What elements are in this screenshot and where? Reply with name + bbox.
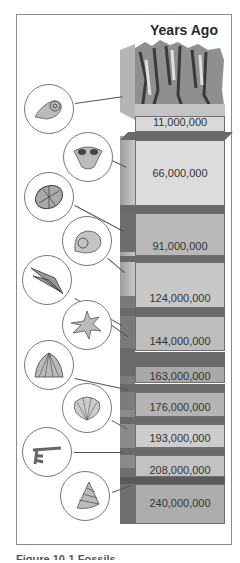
ammonite-icon	[33, 95, 65, 123]
belemnite-icon	[31, 266, 63, 294]
spiral-gastropod-icon	[69, 482, 101, 510]
fossil-circle-fan-shell	[24, 340, 74, 390]
fossil-circle-sea-urchin	[24, 172, 74, 222]
fossil-circle-belemnite	[22, 255, 72, 305]
layer-144000000: 144,000,000	[135, 316, 225, 351]
layer-163000000: 163,000,000	[135, 366, 225, 383]
fossil-circle-spiral-gastropod	[60, 471, 110, 521]
rock-outcrop-icon	[120, 40, 225, 120]
spiny-gastropod-icon	[71, 311, 103, 339]
layer-66000000: 66,000,000	[135, 140, 225, 208]
layer-193000000: 193,000,000	[135, 424, 225, 448]
figure-caption: Figure 10-1 Fossils	[16, 553, 116, 563]
scallop-shell-icon	[71, 394, 103, 422]
fossil-circle-brachiopod	[63, 132, 113, 182]
fossil-circle-crinoid	[22, 427, 72, 477]
sea-urchin-icon	[33, 183, 65, 211]
fossil-circle-scallop	[62, 383, 112, 433]
layer-124000000: 124,000,000	[135, 262, 225, 308]
fossil-circle-ammonite	[24, 84, 74, 134]
fossil-circle-nautilus	[62, 216, 112, 266]
crinoid-fragment-icon	[31, 438, 63, 466]
brachiopod-icon	[72, 143, 104, 171]
layer-208000000: 208,000,000	[135, 455, 225, 477]
diagram-title: Years Ago	[150, 22, 218, 38]
fossil-circle-spiny-gastropod	[62, 300, 112, 350]
fan-shell-icon	[33, 351, 65, 379]
layer-91000000: 91,000,000	[135, 213, 225, 256]
layer-176000000: 176,000,000	[135, 392, 225, 417]
layer-240000000: 240,000,000	[135, 484, 225, 524]
nautilus-icon	[71, 227, 103, 255]
layer-11000000: 11,000,000	[135, 116, 225, 132]
